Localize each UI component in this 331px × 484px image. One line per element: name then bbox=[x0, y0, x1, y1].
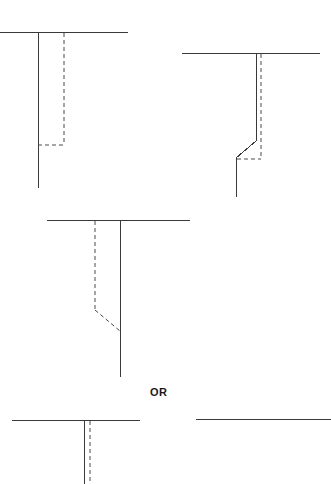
canvas-background bbox=[0, 0, 331, 484]
or-connector-label: OR bbox=[150, 386, 168, 398]
diagram-root: OR bbox=[0, 0, 331, 484]
diagram-canvas bbox=[0, 0, 331, 484]
